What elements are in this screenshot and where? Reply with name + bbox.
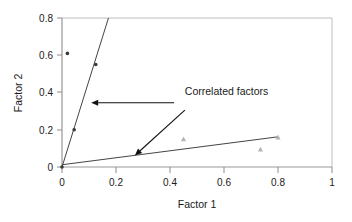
steep-factor-points-marker-1 (66, 52, 70, 56)
y-tick-label-0: 0 (47, 162, 53, 173)
y-tick-label-3: 0.6 (39, 50, 53, 61)
x-axis-title: Factor 1 (178, 198, 217, 210)
scatter-plot-svg: 0.8 0.6 0.4 0.2 0 0 0.2 0.4 0.6 0.8 1 Fa… (0, 0, 352, 222)
steep-factor-points-marker-0 (60, 165, 64, 169)
steep-factor-points-marker-2 (72, 128, 76, 132)
x-tick-label-5: 1 (329, 177, 335, 188)
y-axis-title: Factor 2 (12, 74, 24, 113)
x-tick-label-2: 0.4 (163, 177, 177, 188)
correlated-factors-label: Correlated factors (185, 85, 268, 97)
x-tick-label-4: 0.8 (271, 177, 285, 188)
x-tick-label-1: 0.2 (109, 177, 123, 188)
figure-background (0, 0, 352, 222)
x-tick-label-3: 0.6 (217, 177, 231, 188)
chart-figure: 0.8 0.6 0.4 0.2 0 0 0.2 0.4 0.6 0.8 1 Fa… (0, 0, 352, 222)
x-tick-label-0: 0 (59, 177, 65, 188)
steep-factor-points-marker-3 (94, 63, 98, 67)
y-tick-label-2: 0.4 (39, 87, 53, 98)
y-tick-label-4: 0.8 (39, 13, 53, 24)
y-tick-label-1: 0.2 (39, 125, 53, 136)
